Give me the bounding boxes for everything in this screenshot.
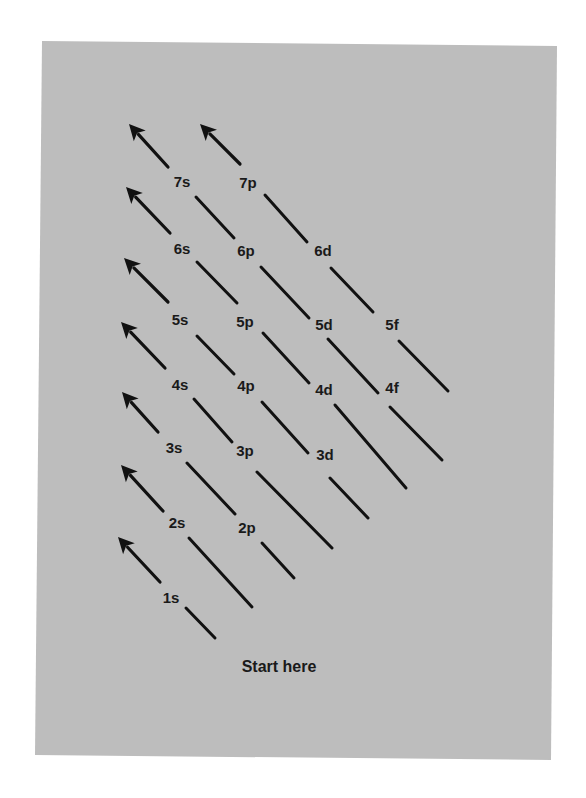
orbital-label-5p: 5p xyxy=(236,313,254,330)
orbital-label-4s: 4s xyxy=(172,376,189,393)
diagram-panel xyxy=(35,41,557,760)
orbital-label-1s: 1s xyxy=(163,589,180,606)
orbital-label-5s: 5s xyxy=(172,311,189,328)
orbital-label-5d: 5d xyxy=(315,316,333,333)
orbital-label-3s: 3s xyxy=(166,439,183,456)
orbital-label-4d: 4d xyxy=(315,381,333,398)
orbital-label-4f: 4f xyxy=(385,379,399,396)
start-here-label: Start here xyxy=(242,658,317,675)
orbital-label-3p: 3p xyxy=(236,442,254,459)
orbital-label-6p: 6p xyxy=(237,242,255,259)
orbital-label-7s: 7s xyxy=(174,173,191,190)
orbital-label-5f: 5f xyxy=(385,316,399,333)
orbital-label-6s: 6s xyxy=(174,240,191,257)
orbital-label-2s: 2s xyxy=(169,514,186,531)
orbital-label-2p: 2p xyxy=(238,519,256,536)
orbital-label-4p: 4p xyxy=(237,377,255,394)
orbital-label-7p: 7p xyxy=(239,174,257,191)
orbital-label-6d: 6d xyxy=(314,242,332,259)
orbital-label-3d: 3d xyxy=(316,446,334,463)
orbital-filling-diagram: 1s2s2p3s3p3d4s4p4d4f5s5p5d5f6s6p6d7s7p S… xyxy=(0,0,586,798)
